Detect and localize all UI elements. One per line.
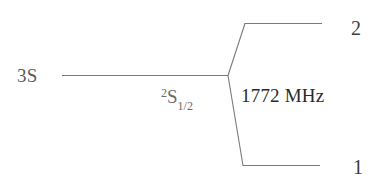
lower-level-label: 1 bbox=[353, 157, 363, 177]
splitting-frequency-label: 1772 MHz bbox=[241, 86, 324, 105]
term-symbol-superscript: 2 bbox=[161, 86, 167, 100]
upper-level-label: 2 bbox=[351, 18, 361, 38]
term-symbol-subscript: 1/2 bbox=[178, 99, 193, 113]
term-symbol-label: 2S1/2 bbox=[161, 86, 193, 110]
energy-level-diagram: 3S 2S1/2 1772 MHz 2 1 bbox=[0, 0, 380, 190]
gross-structure-label: 3S bbox=[17, 66, 38, 85]
term-symbol-letter: S bbox=[167, 86, 178, 107]
upper-branch-line bbox=[228, 24, 245, 76]
